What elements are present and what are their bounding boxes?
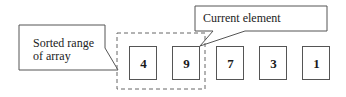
element-value-4: 1 [303,47,330,80]
current-element-label: Current element [203,12,281,25]
element-value-3: 3 [260,47,287,80]
element-value-0: 4 [130,47,157,80]
element-value-1: 9 [173,47,200,80]
sorted-range-label-line2: of array [33,50,71,63]
element-value-2: 7 [217,47,244,80]
